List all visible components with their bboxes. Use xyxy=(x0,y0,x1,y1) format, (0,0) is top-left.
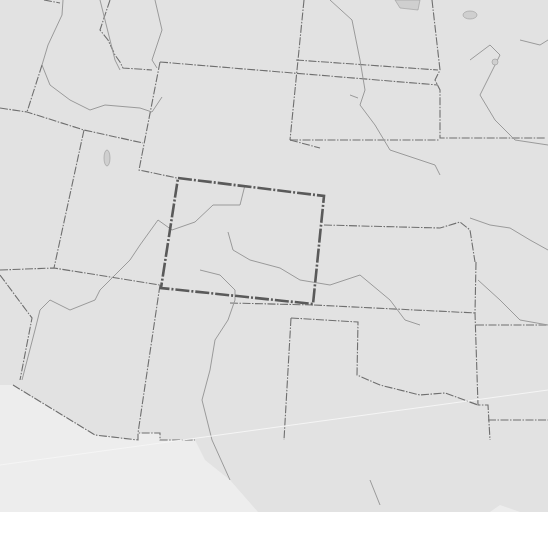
map xyxy=(0,0,548,547)
